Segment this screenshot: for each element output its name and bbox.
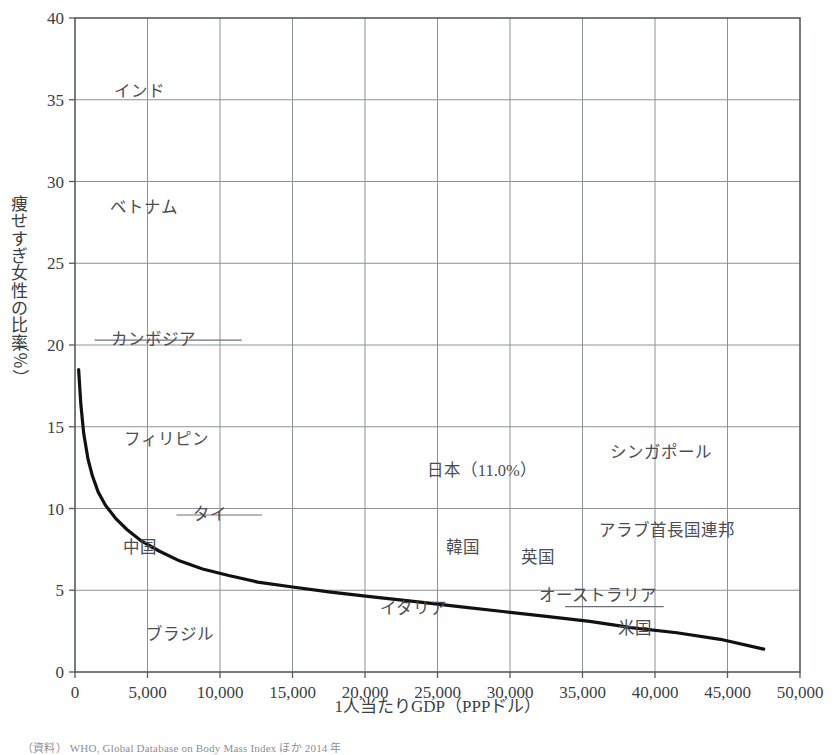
data-point-label: イタリア: [380, 599, 447, 618]
y-axis-title-char: 比: [11, 317, 28, 334]
data-point-label: ブラジル: [146, 624, 214, 644]
data-point-label: 中国: [123, 538, 157, 557]
data-point-label: オーストラリア: [539, 586, 657, 605]
y-axis-title-char: せ: [11, 213, 28, 230]
y-axis-title-char: 女: [11, 265, 28, 282]
x-tick-label: 35,000: [559, 683, 606, 702]
y-tick-label: 40: [47, 9, 64, 28]
data-point-label: カンボジア: [111, 330, 196, 349]
x-tick-label: 50,000: [777, 683, 824, 702]
y-tick-label: 25: [47, 254, 64, 273]
y-tick-label: 35: [47, 91, 64, 110]
y-axis-title-char: （％）: [10, 335, 27, 386]
data-point-label: 英国: [521, 548, 555, 567]
y-tick-label: 30: [47, 173, 64, 192]
y-axis-tick-labels: 0510152025303540: [47, 9, 64, 682]
y-tick-label: 20: [47, 336, 64, 355]
data-point-label: シンガポール: [610, 443, 712, 462]
data-point-label: アラブ首長国連邦: [599, 520, 735, 540]
y-tick-label: 5: [56, 581, 65, 600]
y-tick-label: 15: [47, 418, 64, 437]
source-note: （資料） WHO, Global Database on Body Mass I…: [22, 739, 342, 755]
y-axis-title-char: ぎ: [11, 248, 28, 265]
y-axis-title-char: す: [11, 231, 28, 248]
x-tick-label: 45,000: [704, 683, 751, 702]
data-point-label: 韓国: [446, 538, 480, 557]
y-axis-title-char: 性: [11, 283, 28, 300]
y-tick-label: 10: [47, 500, 64, 519]
data-point-label: インド: [114, 82, 165, 101]
y-tick-label: 0: [56, 663, 65, 682]
x-tick-label: 15,000: [269, 683, 316, 702]
x-tick-label: 40,000: [632, 683, 679, 702]
data-point-label: タイ: [193, 505, 227, 524]
data-point-label: ベトナム: [110, 198, 178, 217]
y-axis-title-char: 痩: [11, 196, 28, 213]
data-point-label: 日本（11.0%）: [427, 461, 537, 480]
data-point-label: フィリピン: [124, 430, 209, 449]
x-tick-label: 0: [71, 683, 80, 702]
source-text: WHO, Global Database on Body Mass Index …: [70, 742, 342, 754]
source-prefix: （資料）: [22, 742, 67, 754]
y-axis-title: 痩 せ す ぎ 女 性 の 比 率 （％）: [4, 196, 34, 369]
x-axis-title: 1人当たりGDP（PPPドル）: [335, 697, 542, 716]
data-point-label: 米国: [618, 619, 652, 638]
label-leader-lines: [95, 340, 664, 607]
x-tick-label: 5,000: [128, 683, 166, 702]
x-tick-label: 10,000: [197, 683, 244, 702]
data-point-labels: インドベトナムカンボジアフィリピンタイ中国ブラジル日本（11.0%）シンガポール…: [110, 82, 735, 644]
y-axis-title-char: の: [11, 300, 28, 317]
